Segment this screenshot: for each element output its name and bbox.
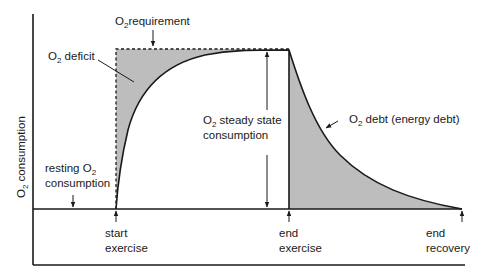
requirement-label: O2requirement xyxy=(115,15,191,30)
debt-pointer xyxy=(326,121,338,128)
oxygen-debt-diagram: O2 consumption O2requirement O2 deficit … xyxy=(0,0,486,280)
deficit-label: O2 deficit xyxy=(48,50,95,65)
resting-label-line1: resting O2 xyxy=(45,162,97,177)
y-axis-label: O2 consumption xyxy=(15,116,30,198)
end-recovery-label-line2: recovery xyxy=(426,242,470,254)
start-exercise-label-line1: start xyxy=(105,227,128,239)
steady-state-label-line1: O2 steady state xyxy=(203,114,282,129)
start-exercise-label-line2: exercise xyxy=(105,242,148,254)
resting-label-line2: consumption xyxy=(45,177,110,189)
end-exercise-label-line2: exercise xyxy=(279,242,322,254)
debt-label: O2 debt (energy debt) xyxy=(349,113,460,128)
oxygen-debt-region xyxy=(289,50,462,209)
steady-state-label-line2: consumption xyxy=(203,129,268,141)
oxygen-consumption-curve xyxy=(116,50,462,209)
end-recovery-label-line1: end xyxy=(426,227,445,239)
end-exercise-label-line1: end xyxy=(279,227,298,239)
